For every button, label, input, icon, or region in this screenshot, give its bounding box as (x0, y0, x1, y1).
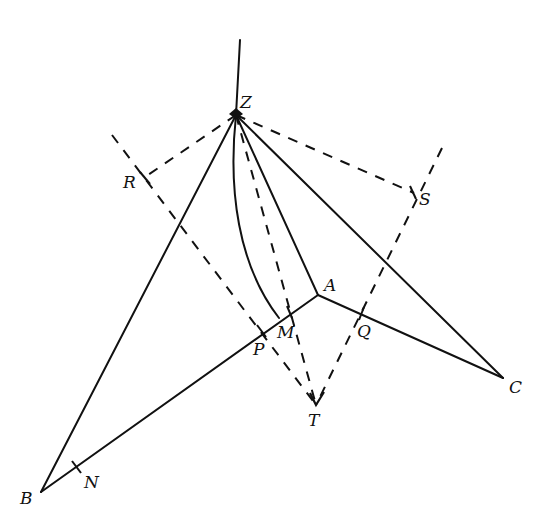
arc-z-m (233, 115, 279, 318)
label-c: C (509, 377, 522, 397)
label-m: M (276, 322, 295, 342)
label-p: P (252, 339, 265, 359)
label-r: R (122, 172, 136, 192)
label-s: S (419, 189, 431, 209)
line-a-c (318, 295, 503, 378)
label-a: A (322, 275, 336, 295)
label-q: Q (357, 321, 371, 341)
dashed-z-r (145, 115, 236, 177)
dashed-z-s (236, 115, 414, 193)
line-z-a (236, 115, 318, 295)
geometry-diagram: Z A B C M P Q N T R S (0, 0, 554, 527)
tick-n (72, 461, 81, 473)
label-t: T (308, 410, 321, 430)
label-z: Z (239, 92, 253, 112)
label-b: B (19, 488, 33, 508)
label-n: N (83, 472, 100, 492)
tick-r (140, 172, 150, 184)
